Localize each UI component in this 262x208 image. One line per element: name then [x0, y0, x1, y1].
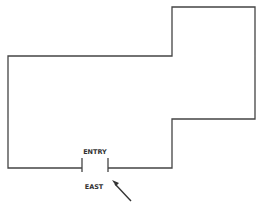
entry-label: ENTRY	[83, 148, 107, 156]
entry-arrow-icon	[112, 180, 131, 201]
building-wall-left-section	[8, 7, 255, 168]
floor-plan-diagram: ENTRY EAST	[0, 0, 262, 208]
direction-label: EAST	[85, 183, 104, 191]
